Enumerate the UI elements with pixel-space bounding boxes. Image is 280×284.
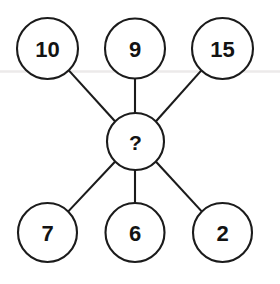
- edge-node-15-to-center: [155, 70, 201, 122]
- diagram-canvas: 10 9 15 ? 7 6 2: [0, 0, 280, 284]
- node-9: 9: [105, 19, 165, 79]
- node-2: 2: [193, 203, 252, 262]
- node-15-label: 15: [210, 37, 234, 62]
- center-node-label: ?: [129, 131, 142, 154]
- center-node: ?: [107, 113, 164, 170]
- edge-node-7-to-center: [68, 161, 116, 212]
- node-7: 7: [18, 203, 77, 262]
- node-10-label: 10: [35, 37, 59, 62]
- node-6-label: 6: [129, 221, 141, 246]
- puzzle-diagram: 10 9 15 ? 7 6 2: [0, 0, 280, 284]
- node-6: 6: [106, 203, 165, 262]
- edge-node-2-to-center: [155, 161, 202, 212]
- edge-node-10-to-center: [69, 70, 116, 122]
- node-10: 10: [17, 18, 78, 79]
- node-15: 15: [192, 18, 253, 79]
- node-9-label: 9: [129, 37, 141, 62]
- node-7-label: 7: [41, 221, 53, 246]
- node-2-label: 2: [216, 221, 228, 246]
